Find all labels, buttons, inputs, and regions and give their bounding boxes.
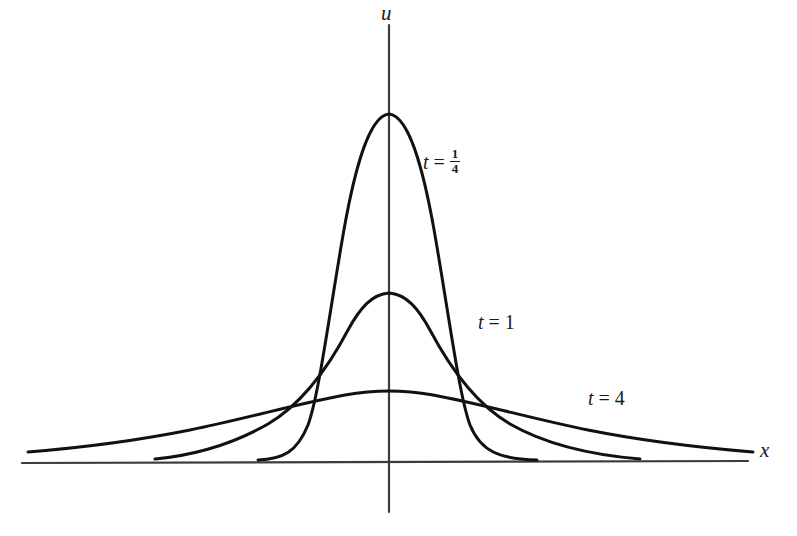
curve-label-t-one: t = 1 (478, 312, 515, 332)
x-axis-line (22, 461, 748, 463)
plot-canvas (0, 0, 797, 536)
heat-kernel-figure: u x t = 1 4 t = 1 t = 4 (0, 0, 797, 536)
t-value: 1 (505, 312, 515, 332)
u-axis-label: u (381, 3, 392, 24)
curve-label-t-quarter: t = 1 4 (423, 148, 460, 176)
equals-symbol: = (434, 152, 445, 172)
equals-symbol: = (599, 388, 610, 408)
curve-label-t-four: t = 4 (588, 388, 625, 408)
t-symbol: t (478, 312, 484, 332)
x-axis-label: x (760, 440, 769, 461)
curve-t-1 (155, 293, 640, 459)
curve-t-4 (28, 391, 753, 452)
t-value: 4 (615, 388, 625, 408)
fraction-numerator: 1 (450, 147, 461, 161)
equals-symbol: = (489, 312, 500, 332)
fraction-denominator: 4 (450, 161, 461, 176)
fraction-one-quarter: 1 4 (450, 147, 461, 175)
t-symbol: t (588, 388, 594, 408)
t-symbol: t (423, 152, 429, 172)
